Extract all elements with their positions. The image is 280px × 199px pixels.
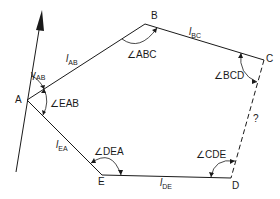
angle-arc-EAB <box>41 89 47 115</box>
angle-label-EAB: ∠EAB <box>50 98 79 109</box>
side-length-label-EA: lEA <box>56 139 68 152</box>
vertex-label-B: B <box>151 10 158 21</box>
vertex-label-C: C <box>266 53 273 64</box>
side-EA <box>27 100 102 175</box>
vertex-label-D: D <box>232 180 239 191</box>
angle-arc-DEA <box>91 158 123 175</box>
angle-arc-CDE <box>209 159 235 177</box>
side-AB <box>27 24 145 100</box>
angle-label-CDE: ∠CDE <box>196 149 226 160</box>
north-arrow <box>16 10 44 172</box>
side-length-label-DE: lDE <box>160 177 172 190</box>
bearing-label-gamma-AB: γAB <box>31 69 46 81</box>
vertex-label-E: E <box>98 176 105 187</box>
angle-label-BCD: ∠BCD <box>214 70 244 81</box>
side-BC <box>145 24 264 60</box>
side-length-label-BC: lBC <box>189 26 201 39</box>
traverse-diagram: A B C D E lAB lBC ? lDE lEA ∠ABC ∠BCD ∠C… <box>0 0 280 199</box>
angle-label-ABC: ∠ABC <box>127 49 157 60</box>
north-arrowhead-icon <box>36 10 44 31</box>
vertex-label-A: A <box>15 94 22 105</box>
angle-label-DEA: ∠DEA <box>94 146 124 157</box>
side-length-label-AB: lAB <box>66 53 78 66</box>
side-unknown-label-CD: ? <box>253 113 259 124</box>
